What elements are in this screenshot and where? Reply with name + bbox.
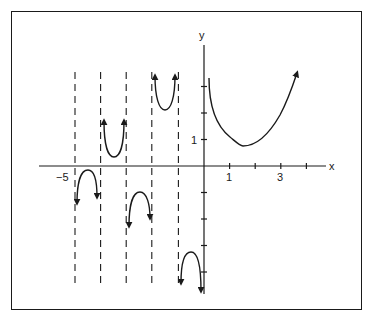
- branch-neg3-neg2: [129, 192, 150, 226]
- branch-neg1-0: [181, 252, 201, 291]
- y-axis-label: y: [199, 29, 205, 41]
- branch-positive: [209, 73, 297, 146]
- asymptotes: [75, 72, 178, 287]
- branch-neg4-neg3: [104, 121, 124, 157]
- gamma-function-plot: y x −5 1 3 1: [0, 0, 373, 319]
- x-tick-label-neg5: −5: [56, 171, 69, 183]
- axes: [39, 45, 326, 294]
- x-tick-label-3: 3: [277, 171, 283, 183]
- x-tick-label-1: 1: [226, 171, 232, 183]
- branch-neg5-neg4: [77, 170, 97, 203]
- x-axis-label: x: [329, 160, 335, 172]
- y-tick-label-1: 1: [191, 134, 197, 146]
- branch-neg2-neg1: [155, 76, 175, 110]
- curve-branches: [77, 73, 297, 291]
